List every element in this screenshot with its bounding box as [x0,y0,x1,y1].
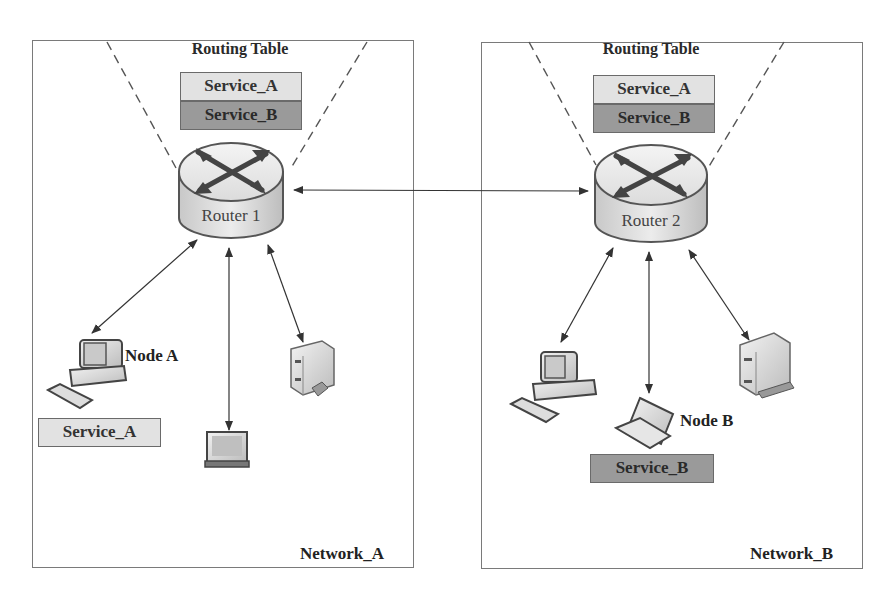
routing-table-b-entry-service-b: Service_B [593,104,715,133]
node-b-service-box: Service_B [590,454,714,483]
desktop-computer-icon-network-b [511,352,596,422]
link-router2-server-b [689,250,749,340]
network-a-label: Network_A [300,544,384,564]
link-router1-router2 [294,190,588,191]
laptop-icon-node-b [616,398,673,448]
server-icon-network-b [740,333,794,398]
node-a-label: Node A [125,346,178,366]
node-b-label: Node B [680,411,733,431]
routing-table-title-a: Routing Table [170,40,310,58]
network-b-label: Network_B [750,544,833,564]
link-router1-server-a [268,245,303,342]
server-icon-network-a [291,341,334,396]
routing-table-a-entry-service-b: Service_B [180,101,302,130]
routing-table-title-b: Routing Table [581,40,721,58]
laptop-icon-network-a [205,432,249,467]
link-router1-node-a [92,240,197,333]
router-2-label: Router 2 [611,211,691,231]
desktop-computer-icon-node-a [48,340,126,408]
node-a-service-box: Service_A [38,418,161,447]
diagram-canvas [0,0,895,598]
link-router2-desktop-b [561,248,613,342]
router-1-label: Router 1 [191,206,271,226]
routing-table-a-entry-service-a: Service_A [180,72,302,101]
routing-table-b-entry-service-a: Service_A [593,75,715,104]
